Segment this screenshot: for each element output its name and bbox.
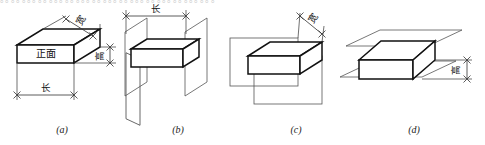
cuboid-front-face (248, 56, 300, 74)
panel-c-width-dimension: 宽 (297, 11, 326, 42)
panel-c: 宽 (c) (230, 11, 326, 136)
cuboid-front-face (131, 49, 183, 67)
panel-a: 正面 长 高 (14, 13, 117, 136)
panel-d-height-label: 高 (450, 65, 461, 75)
panel-d: 高 (d) (340, 30, 472, 136)
top-cut-text: 。。。。。。。。。。。。。。。。。。。。。。。。。。。。。。。。。。。。。。。。 (0, 0, 485, 4)
panel-b-cuboid (131, 39, 199, 67)
panel-a-caption: (a) (56, 124, 68, 136)
panel-c-cuboid (248, 42, 322, 74)
panel-a-front-face-label: 正面 (36, 48, 56, 59)
panel-a-height-label: 高 (94, 51, 105, 61)
top-cut-text-line: 。。。。。。。。。。。。。。。。。。。。。。。。。。。。。。。。。。。。。。。。 (0, 0, 485, 5)
panel-d-caption: (d) (408, 124, 420, 136)
panel-a-cuboid (17, 29, 100, 63)
technical-figure-svg: 正面 长 高 (0, 0, 485, 145)
cuboid-front-face (359, 60, 413, 79)
panel-d-cuboid (359, 41, 435, 79)
panel-b: 长 (b) (123, 3, 208, 136)
panel-b-caption: (b) (172, 124, 184, 136)
panel-b-length-dimension: 长 (123, 3, 190, 34)
panel-c-caption: (c) (290, 124, 302, 136)
panel-c-width-label: 宽 (306, 11, 321, 26)
panel-a-length-label: 长 (41, 82, 51, 93)
figure-root: 。。。。。。。。。。。。。。。。。。。。。。。。。。。。。。。。。。。。。。。。… (0, 0, 485, 145)
panel-a-length-dimension: 长 (14, 64, 78, 100)
